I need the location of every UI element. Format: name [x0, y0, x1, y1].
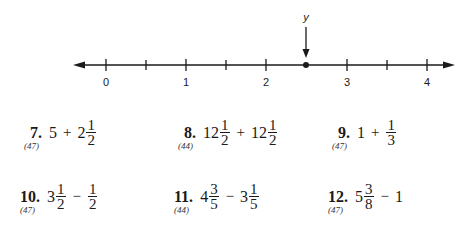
lesson-ref: (44) [174, 205, 189, 215]
problem-number: 12.(47) [328, 188, 348, 206]
fraction: 38 [364, 182, 374, 211]
problem-12: 12.(47) 5 38 − 1 [328, 182, 403, 211]
problem-8: 8.(44) 12 12 + 12 12 [184, 118, 278, 147]
problem-number: 10.(47) [20, 188, 40, 206]
lesson-ref: (47) [24, 141, 39, 151]
right-arrow-icon [443, 62, 455, 69]
fraction: 15 [249, 182, 259, 211]
problem-11: 11.(44) 4 35 − 3 15 [174, 182, 260, 211]
lesson-ref: (47) [332, 141, 347, 151]
fraction: 12 [56, 182, 66, 211]
tick-label-1: 1 [183, 76, 189, 88]
fraction: 12 [268, 118, 278, 147]
fraction: 13 [386, 118, 396, 147]
point-y [303, 62, 309, 68]
left-arrow-icon [73, 62, 85, 69]
fraction: 12 [220, 118, 230, 147]
lesson-ref: (47) [328, 205, 343, 215]
tick-label-0: 0 [103, 76, 109, 88]
tick-label-2: 2 [263, 76, 269, 88]
down-arrow-icon [303, 49, 310, 58]
fraction: 12 [86, 118, 96, 147]
problem-10: 10.(47) 3 12 − 12 [20, 182, 98, 211]
problem-number: 11.(44) [174, 188, 193, 206]
problem-number: 7.(47) [30, 124, 42, 142]
number-line [0, 0, 468, 100]
tick-label-4: 4 [424, 76, 430, 88]
fraction: 35 [209, 182, 219, 211]
fraction: 12 [88, 182, 98, 211]
problem-9: 9.(47) 1 + 13 [338, 118, 397, 147]
problem-number: 9.(47) [338, 124, 350, 142]
lesson-ref: (44) [178, 141, 193, 151]
problem-7: 7.(47) 5 + 2 12 [30, 118, 97, 147]
lesson-ref: (47) [20, 205, 35, 215]
tick-label-3: 3 [344, 76, 350, 88]
problem-number: 8.(44) [184, 124, 196, 142]
point-label: y [303, 11, 309, 23]
